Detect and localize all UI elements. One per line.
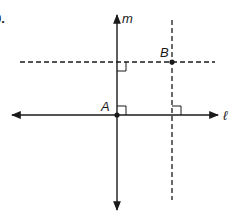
point-b-dot <box>169 59 174 64</box>
perpendicular-lines-diagram <box>0 0 236 220</box>
point-a-dot <box>114 112 119 117</box>
right-angle-mark-icon <box>117 62 126 71</box>
line-m-label: m <box>122 12 133 25</box>
line-l-label: ℓ <box>223 109 227 122</box>
point-a-label: A <box>101 100 110 113</box>
problem-number: 9. <box>0 12 5 25</box>
right-angle-mark-icon <box>172 106 181 115</box>
point-b-label: B <box>160 46 169 59</box>
